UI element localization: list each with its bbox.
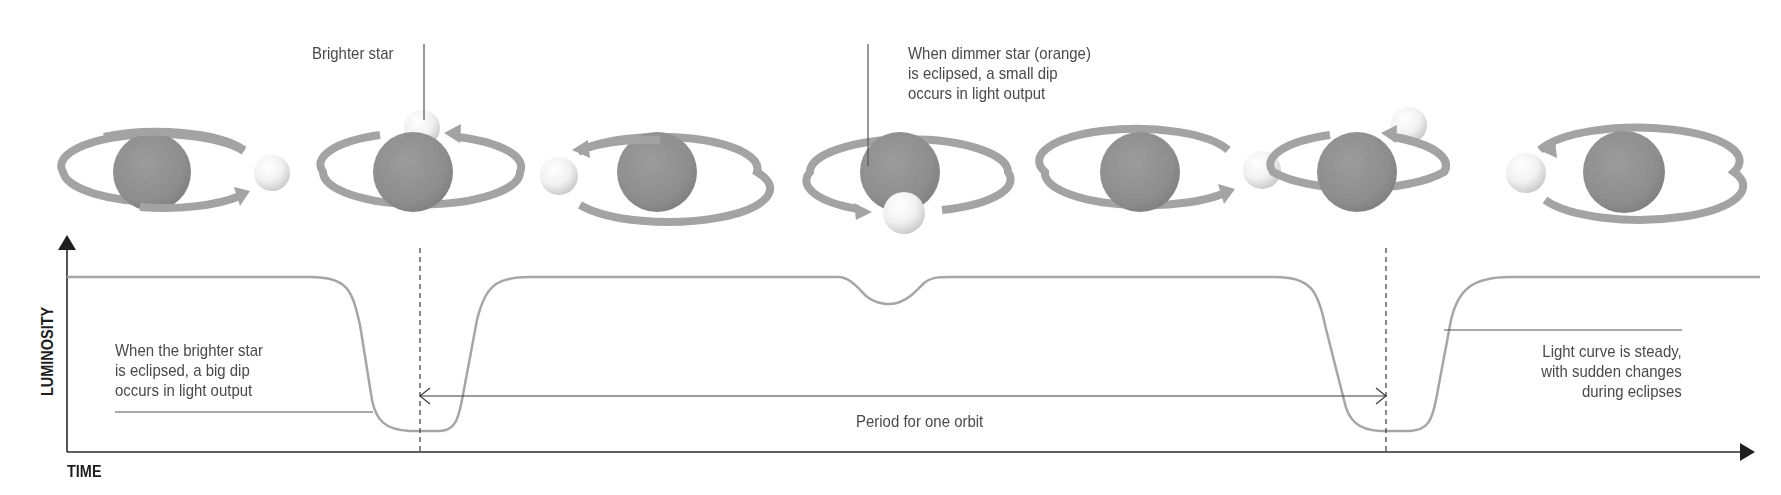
orbit-arrowhead-icon — [854, 203, 872, 220]
dimmer-star-eclipse-annotation: When dimmer star (orange) is eclipsed, a… — [908, 44, 1091, 104]
small-star — [254, 155, 290, 191]
steady-curve-annotation: Light curve is steady, with sudden chang… — [1541, 342, 1682, 402]
period-label: Period for one orbit — [856, 412, 983, 432]
big-dip-annotation-line-1: When the brighter star — [115, 341, 263, 361]
orbit-panel-6 — [1270, 107, 1446, 212]
orbit-panel-7 — [1506, 128, 1743, 220]
steady-annotation-line-3: during eclipses — [1541, 382, 1682, 402]
dimmer-star-annotation-line-1: When dimmer star (orange) — [908, 44, 1091, 64]
big-star — [113, 133, 191, 211]
small-star — [540, 157, 578, 195]
y-axis-label: LUMINOSITY — [38, 307, 58, 396]
orbit-panel-4 — [806, 132, 1010, 234]
dimmer-star-annotation-line-3: occurs in light output — [908, 84, 1091, 104]
small-star — [1506, 153, 1546, 193]
small-star-front — [883, 192, 925, 234]
y-axis-arrowhead-icon — [58, 235, 76, 250]
orbit-arrowhead-icon — [444, 124, 461, 143]
orbit-panel-1 — [61, 132, 290, 211]
big-dip-annotation-line-3: occurs in light output — [115, 381, 263, 401]
orbit-arrowhead-icon — [1381, 125, 1397, 143]
orbit-panel-5 — [1039, 129, 1281, 212]
orbit-ring-right — [1393, 137, 1446, 172]
big-star — [1317, 132, 1397, 212]
steady-annotation-line-1: Light curve is steady, — [1541, 342, 1682, 362]
x-axis-label: TIME — [67, 462, 102, 482]
big-dip-annotation-line-2: is eclipsed, a big dip — [115, 361, 263, 381]
big-star — [1583, 131, 1665, 213]
orbit-arrowhead-icon — [572, 140, 590, 158]
x-axis-arrowhead-icon — [1740, 443, 1755, 461]
big-dip-annotation: When the brighter star is eclipsed, a bi… — [115, 341, 263, 401]
steady-annotation-line-2: with sudden changes — [1541, 362, 1682, 382]
big-star — [373, 132, 453, 212]
big-star — [1100, 132, 1180, 212]
light-curve — [67, 277, 1760, 431]
orbit-panel-2 — [320, 110, 521, 212]
orbit-panel-3 — [540, 132, 770, 222]
dimmer-star-annotation-line-2: is eclipsed, a small dip — [908, 64, 1091, 84]
brighter-star-label: Brighter star — [312, 44, 393, 64]
